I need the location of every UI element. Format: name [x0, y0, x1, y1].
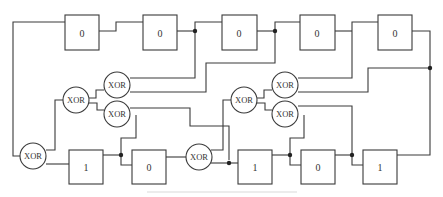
xor-label: XOR: [67, 95, 85, 105]
junction-dot: [227, 161, 231, 165]
top-register-row: 0 0 0 0 0: [65, 15, 412, 50]
register-box: 0: [222, 15, 257, 50]
register-box: 0: [301, 150, 335, 184]
xor-label: XOR: [190, 152, 208, 162]
register-box: 0: [132, 150, 166, 184]
xor-label: XOR: [276, 109, 294, 119]
register-box: 1: [363, 150, 397, 184]
register-value: 0: [158, 28, 163, 39]
xor-label: XOR: [276, 80, 294, 90]
figure-caption-faint: [0, 186, 443, 196]
register-value: 0: [237, 28, 242, 39]
register-box: 0: [378, 15, 412, 50]
register-box: 0: [143, 15, 177, 50]
junction-dot: [193, 29, 197, 33]
register-value: 0: [80, 28, 85, 39]
register-box: 1: [238, 150, 272, 184]
xor-label: XOR: [108, 109, 126, 119]
xor-gate: XOR: [231, 87, 257, 113]
caption-placeholder-bar: [147, 191, 297, 193]
junction-dot: [428, 66, 432, 70]
xor-gate: XOR: [20, 143, 46, 169]
junction-dot: [288, 153, 292, 157]
register-value: 1: [378, 162, 383, 173]
xor-gate: XOR: [272, 101, 298, 127]
xor-gate: XOR: [104, 101, 130, 127]
junction-dot: [350, 153, 354, 157]
junction-dot: [119, 153, 123, 157]
junction-dot: [273, 29, 277, 33]
register-value: 0: [316, 162, 321, 173]
register-value: 1: [253, 162, 258, 173]
xor-label: XOR: [235, 95, 253, 105]
register-value: 0: [393, 28, 398, 39]
xor-gate: XOR: [63, 87, 89, 113]
xor-label: XOR: [24, 151, 42, 161]
register-box: 0: [65, 15, 99, 50]
register-value: 0: [315, 28, 320, 39]
xor-gate: XOR: [186, 144, 212, 170]
register-value: 1: [84, 162, 89, 173]
circuit-diagram: 0 0 0 0 0 1 0 1: [0, 0, 443, 197]
register-box: 1: [69, 150, 103, 184]
xor-label: XOR: [108, 80, 126, 90]
xor-gate: XOR: [104, 72, 130, 98]
xor-gate: XOR: [272, 72, 298, 98]
register-value: 0: [147, 162, 152, 173]
register-box: 0: [300, 15, 335, 50]
